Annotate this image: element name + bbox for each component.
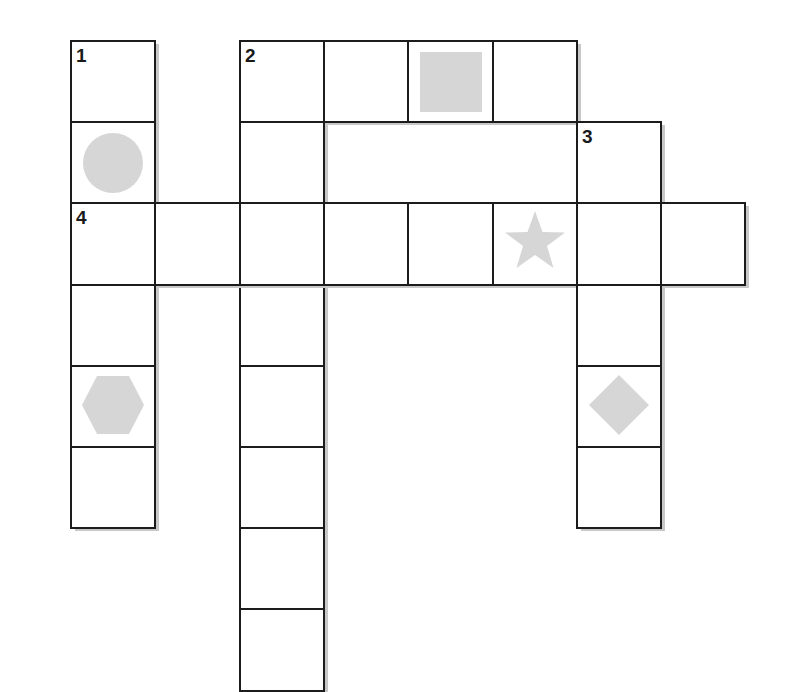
crossword-cell[interactable]: 3: [576, 121, 662, 204]
crossword-cell[interactable]: 4: [70, 202, 156, 286]
star-icon: [503, 209, 567, 275]
crossword-cell[interactable]: [492, 40, 578, 123]
crossword-cell[interactable]: [239, 202, 325, 286]
crossword-cell[interactable]: [239, 446, 325, 529]
crossword-cell[interactable]: 1: [70, 40, 156, 123]
crossword-cell[interactable]: [323, 40, 409, 123]
crossword-cell[interactable]: [239, 284, 325, 367]
crossword-cell[interactable]: [576, 202, 662, 286]
crossword-cell[interactable]: [239, 608, 325, 692]
crossword-cell[interactable]: [239, 527, 325, 610]
crossword-cell[interactable]: [70, 284, 156, 367]
crossword-cell[interactable]: [576, 284, 662, 367]
clue-number: 2: [245, 46, 256, 65]
crossword-cell[interactable]: [239, 121, 325, 204]
crossword-cell[interactable]: 2: [239, 40, 325, 123]
crossword-cell[interactable]: [660, 202, 746, 286]
crossword-cell[interactable]: [70, 365, 156, 448]
crossword-cell[interactable]: [492, 202, 578, 286]
hexagon-icon: [82, 375, 144, 439]
crossword-cell[interactable]: [407, 202, 494, 286]
crossword-cell[interactable]: [70, 446, 156, 529]
crossword-cell[interactable]: [154, 202, 241, 286]
crossword-cell[interactable]: [323, 202, 409, 286]
clue-number: 3: [582, 127, 593, 146]
diamond-icon: [588, 374, 650, 440]
clue-number: 4: [76, 208, 87, 227]
clue-number: 1: [76, 46, 87, 65]
square-icon: [420, 52, 482, 112]
crossword-cell[interactable]: [70, 121, 156, 204]
circle-icon: [83, 133, 143, 193]
crossword-cell[interactable]: [239, 365, 325, 448]
crossword-cell[interactable]: [407, 40, 494, 123]
crossword-cell[interactable]: [576, 365, 662, 448]
crossword-cell[interactable]: [576, 446, 662, 529]
